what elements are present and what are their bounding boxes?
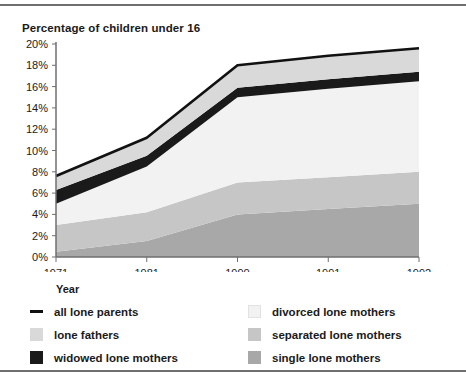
legend-label-separated_lone_mothers: separated lone mothers (272, 329, 402, 341)
y-tick-label: 14% (26, 102, 48, 114)
y-tick-label: 6% (32, 187, 48, 199)
plot-area: 0%2%4%6%8%10%12%14%16%18%20% 19711981199… (0, 32, 466, 272)
bottom-divider-rule (0, 370, 466, 372)
chart-page: Percentage of children under 16 0%2%4%6%… (0, 0, 466, 376)
legend-label-lone_fathers: lone fathers (54, 329, 119, 341)
legend-item-lone_fathers: lone fathers (30, 323, 230, 346)
x-tick-label: 1981 (135, 267, 159, 272)
legend-swatch-separated_lone_mothers-icon (248, 328, 261, 341)
legend-item-all_lone_parents: all lone parents (30, 300, 230, 323)
y-tick-label: 20% (26, 38, 48, 50)
x-tick-label: 1971 (44, 267, 68, 272)
stacked-area-chart: 0%2%4%6%8%10%12%14%16%18%20% 19711981199… (0, 32, 466, 272)
legend-label-all_lone_parents: all lone parents (54, 306, 138, 318)
legend-item-single_lone_mothers: single lone mothers (248, 346, 448, 369)
y-tick-label: 4% (32, 208, 48, 220)
legend-item-divorced_lone_mothers: divorced lone mothers (248, 300, 448, 323)
x-axis-ticks: 19711981199019911992 (44, 257, 431, 272)
legend-swatch-all_lone_parents-icon (30, 305, 43, 318)
y-tick-label: 10% (26, 145, 48, 157)
legend-label-single_lone_mothers: single lone mothers (272, 352, 381, 364)
x-tick-label: 1990 (225, 267, 249, 272)
y-tick-label: 8% (32, 166, 48, 178)
legend-swatch-divorced_lone_mothers-icon (248, 305, 261, 318)
legend-swatch-widowed_lone_mothers-icon (30, 351, 43, 364)
legend-label-widowed_lone_mothers: widowed lone mothers (54, 352, 178, 364)
legend-item-separated_lone_mothers: separated lone mothers (248, 323, 448, 346)
legend-swatch-single_lone_mothers-icon (248, 351, 261, 364)
legend-swatch-lone_fathers-icon (30, 328, 43, 341)
x-axis-title: Year (56, 283, 79, 295)
y-tick-label: 16% (26, 81, 48, 93)
chart-legend: all lone parentsdivorced lone motherslon… (30, 300, 450, 369)
y-axis-ticks: 0%2%4%6%8%10%12%14%16%18%20% (26, 38, 56, 263)
legend-item-widowed_lone_mothers: widowed lone mothers (30, 346, 230, 369)
x-tick-label: 1991 (316, 267, 340, 272)
y-tick-label: 12% (26, 123, 48, 135)
y-tick-label: 18% (26, 59, 48, 71)
legend-label-divorced_lone_mothers: divorced lone mothers (272, 306, 395, 318)
x-tick-label: 1992 (407, 267, 431, 272)
y-tick-label: 2% (32, 230, 48, 242)
y-tick-label: 0% (32, 251, 48, 263)
top-divider-rule (0, 4, 466, 6)
